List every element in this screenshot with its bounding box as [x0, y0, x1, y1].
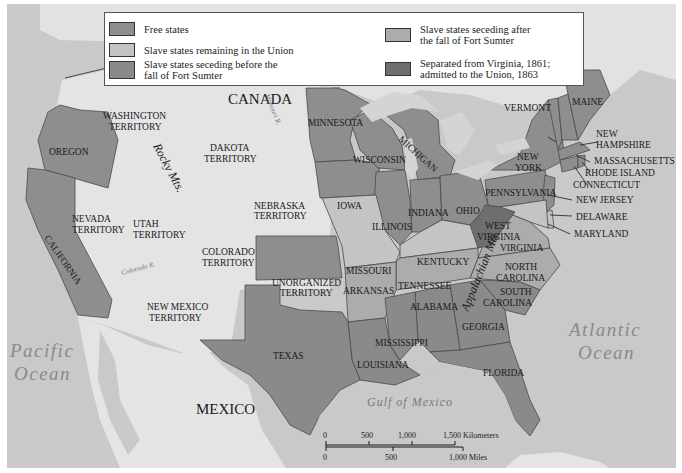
label-texas: TEXAS: [273, 351, 304, 361]
label-illinois: ILLINOIS: [372, 222, 412, 232]
label-wisconsin: WISCONSIN: [353, 155, 406, 165]
label-canada: CANADA: [228, 91, 292, 107]
label-indiana: INDIANA: [408, 208, 449, 218]
label-delaware: DELAWARE: [576, 212, 628, 222]
legend-label: Slave states seceding after the fall of …: [420, 24, 531, 46]
legend-swatch-seceded-after: [385, 28, 411, 42]
label-dakota-territory: DAKOTA: [210, 143, 249, 153]
scale-mi-1000: 1,000 Miles: [449, 453, 487, 462]
label-alabama: ALABAMA: [410, 302, 458, 312]
label-newmexico-territory-2: TERRITORY: [149, 313, 202, 323]
label-georgia: GEORGIA: [462, 322, 505, 332]
label-rhodeisland: RHODE ISLAND: [585, 168, 655, 178]
state-iowa: [315, 160, 380, 198]
legend-swatch-west-virginia: [385, 62, 411, 76]
label-nebraska-territory-2: TERRITORY: [254, 211, 307, 221]
label-utah-territory-2: TERRITORY: [133, 230, 186, 240]
label-mississippi: MISSISSIPPI: [375, 338, 428, 348]
legend-line1: Separated from Virginia, 1861;: [420, 58, 550, 69]
legend-line2: fall of Fort Sumter: [144, 70, 278, 81]
scale-km-500: 500: [361, 431, 373, 440]
label-southcarolina: SOUTH: [500, 287, 532, 297]
label-westvirginia: WEST: [485, 221, 511, 231]
label-newyork-2: YORK: [515, 163, 542, 173]
label-ohio: OHIO: [456, 206, 480, 216]
label-newjersey: NEW JERSEY: [576, 195, 634, 205]
label-newhampshire: NEW: [596, 129, 618, 139]
label-iowa: IOWA: [337, 201, 362, 211]
label-oregon: OREGON: [49, 147, 89, 157]
label-kentucky: KENTUCKY: [417, 257, 469, 267]
label-southcarolina-2: CAROLINA: [483, 298, 532, 308]
label-unorganized-territory: UNORGANIZED: [272, 278, 341, 288]
label-colorado-territory-2: TERRITORY: [202, 258, 255, 268]
scale-km-0: 0: [323, 431, 327, 440]
legend-line2: the fall of Fort Sumter: [420, 35, 531, 46]
label-florida: FLORIDA: [483, 368, 524, 378]
legend-swatch-border-slave: [109, 43, 135, 57]
label-newmexico-territory: NEW MEXICO: [147, 302, 208, 312]
state-kansas: [256, 236, 342, 280]
legend-item-free-states: Free states: [109, 22, 189, 36]
label-nevada-territory: NEVADA: [72, 214, 111, 224]
legend-item-seceded-before: Slave states seceding before the fall of…: [109, 59, 278, 81]
label-pacific-ocean-2: Ocean: [14, 363, 71, 384]
label-dakota-territory-2: TERRITORY: [204, 154, 257, 164]
label-colorado-territory: COLORADO: [202, 247, 255, 257]
label-virginia: VIRGINIA: [500, 243, 543, 253]
label-utah-territory: UTAH: [133, 219, 159, 229]
label-tennessee: TENNESSEE: [398, 281, 452, 291]
label-atlantic-ocean-2: Ocean: [578, 342, 635, 363]
label-nevada-territory-2: TERRITORY: [72, 225, 125, 235]
legend-line2: admitted to the Union, 1863: [420, 69, 550, 80]
label-nebraska-territory: NEBRASKA: [254, 201, 305, 211]
scale-km-1500: 1,500 Kilometers: [443, 431, 499, 440]
legend-line1: Slave states seceding after: [420, 24, 531, 35]
legend-item-seceded-after: Slave states seceding after the fall of …: [385, 24, 531, 46]
label-washington-territory-2: TERRITORY: [109, 122, 162, 132]
legend-label: Free states: [144, 24, 189, 35]
label-atlantic-ocean: Atlantic: [567, 319, 641, 340]
label-mexico: MEXICO: [196, 401, 255, 417]
scale-km-1000: 1,000: [398, 431, 416, 440]
label-louisiana: LOUISIANA: [357, 360, 409, 370]
legend-swatch-seceded-before: [109, 61, 135, 79]
scale-mi-0: 0: [323, 453, 327, 462]
label-gulf-of-mexico: Gulf of Mexico: [367, 395, 453, 409]
legend-item-west-virginia: Separated from Virginia, 1861; admitted …: [385, 58, 550, 80]
label-newhampshire-2: HAMPSHIRE: [596, 140, 651, 150]
legend-label: Slave states remaining in the Union: [144, 45, 294, 56]
legend-line1: Slave states seceding before the: [144, 59, 278, 70]
label-maine: MAINE: [572, 97, 603, 107]
legend: Free states Slave states remaining in th…: [104, 12, 584, 86]
label-westvirginia-2: VIRGINIA: [477, 232, 520, 242]
label-washington-territory: WASHINGTON: [103, 111, 166, 121]
legend-item-border-slave: Slave states remaining in the Union: [109, 43, 294, 57]
label-maryland: MARYLAND: [574, 229, 629, 239]
scale-mi-500: 500: [385, 453, 397, 462]
label-northcarolina: NORTH: [505, 262, 537, 272]
legend-label: Separated from Virginia, 1861; admitted …: [420, 58, 550, 80]
legend-swatch-free: [109, 22, 135, 36]
label-arkansas: ARKANSAS: [343, 286, 394, 296]
label-unorganized-territory-2: TERRITORY: [280, 288, 333, 298]
label-massachusetts: MASSACHUSETTS: [594, 156, 675, 166]
label-newyork: NEW: [517, 152, 539, 162]
label-missouri: MISSOURI: [346, 266, 391, 276]
label-pacific-ocean: Pacific: [9, 340, 74, 361]
label-northcarolina-2: CAROLINA: [496, 273, 545, 283]
label-connecticut: CONNECTICUT: [573, 180, 640, 190]
legend-label: Slave states seceding before the fall of…: [144, 59, 278, 81]
label-pennsylvania: PENNSYLVANIA: [485, 188, 556, 198]
label-minnesota: MINNESOTA: [308, 118, 363, 128]
label-vermont: VERMONT: [504, 103, 551, 113]
